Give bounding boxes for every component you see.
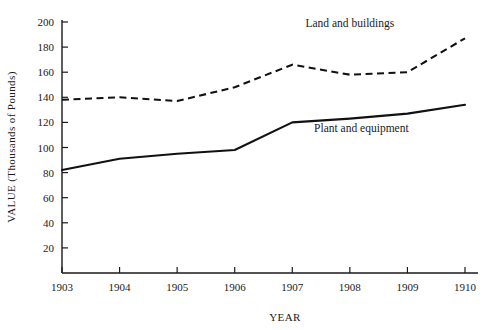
line-chart: 20406080100120140160180200 VALUE (Thousa… — [0, 0, 498, 330]
series-line-plant-and-equipment — [62, 105, 465, 170]
y-axis-title: VALUE (Thousands of Pounds) — [5, 71, 18, 222]
x-tick-label-1909: 1909 — [396, 281, 419, 293]
x-tick-label-group: 19031904190519061907190819091910 — [51, 281, 477, 293]
x-tick-label-1904: 1904 — [109, 281, 132, 293]
x-tick-label-1910: 1910 — [454, 281, 477, 293]
series-annotation-0: Land and buildings — [305, 17, 394, 30]
y-tick-label-60: 60 — [43, 192, 55, 204]
y-tick-label-group: 20406080100120140160180200 — [38, 16, 55, 254]
x-tick-group — [62, 267, 465, 273]
y-tick-label-20: 20 — [43, 242, 55, 254]
y-tick-label-40: 40 — [43, 217, 55, 229]
series-line-land-and-buildings — [62, 38, 465, 101]
y-axis: 20406080100120140160180200 VALUE (Thousa… — [5, 16, 68, 273]
y-tick-label-180: 180 — [38, 41, 55, 53]
y-tick-label-80: 80 — [43, 167, 55, 179]
y-tick-label-160: 160 — [38, 66, 55, 78]
x-axis-title: YEAR — [269, 311, 301, 323]
x-tick-label-1907: 1907 — [281, 281, 304, 293]
x-tick-label-1905: 1905 — [166, 281, 189, 293]
series-annotation-1: Plant and equipment — [314, 122, 409, 135]
x-tick-label-1906: 1906 — [224, 281, 247, 293]
x-axis: 19031904190519061907190819091910 YEAR — [51, 267, 478, 323]
y-tick-label-140: 140 — [38, 91, 55, 103]
y-tick-label-120: 120 — [38, 116, 55, 128]
y-tick-group — [62, 22, 68, 248]
chart-canvas: 20406080100120140160180200 VALUE (Thousa… — [0, 0, 498, 330]
y-tick-label-100: 100 — [38, 142, 55, 154]
y-tick-label-200: 200 — [38, 16, 55, 28]
x-tick-label-1908: 1908 — [339, 281, 362, 293]
series-group — [62, 38, 465, 170]
x-tick-label-1903: 1903 — [51, 281, 74, 293]
